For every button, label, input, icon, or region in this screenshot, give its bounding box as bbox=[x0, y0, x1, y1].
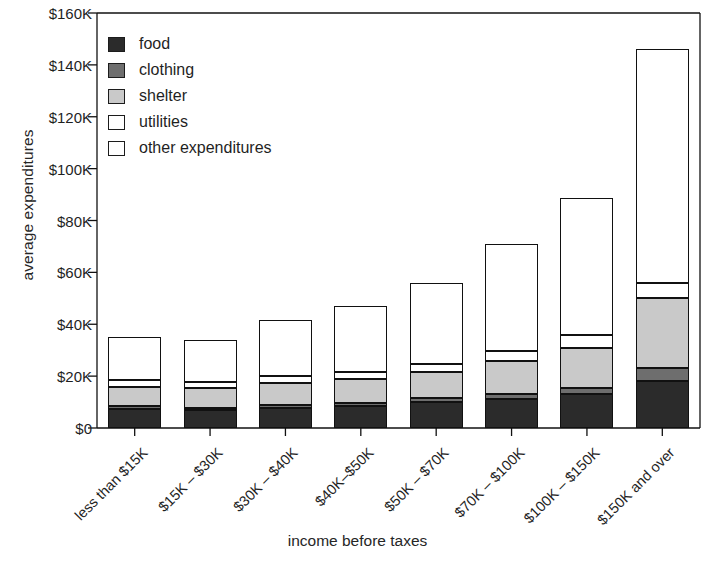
y-axis-tick-labels: $0$20K$40K$60K$80K$100K$120K$140K$160K bbox=[28, 0, 92, 561]
legend-swatch-icon bbox=[108, 63, 125, 78]
bar-segment bbox=[184, 388, 237, 408]
bar-segment bbox=[184, 340, 237, 382]
bar-segment bbox=[259, 383, 312, 405]
bar-segment bbox=[184, 382, 237, 388]
bar-segment bbox=[560, 388, 613, 394]
bar-segment bbox=[259, 376, 312, 383]
legend-item: food bbox=[108, 36, 272, 52]
bar-segment bbox=[108, 380, 161, 386]
bar-segment bbox=[334, 306, 387, 372]
bar-segment bbox=[259, 320, 312, 377]
legend-swatch-icon bbox=[108, 89, 125, 104]
legend-item-label: utilities bbox=[139, 114, 188, 130]
bar-segment bbox=[184, 410, 237, 428]
y-tick-label: $140K bbox=[28, 56, 92, 73]
bar-segment bbox=[108, 406, 161, 409]
bar-segment bbox=[410, 402, 463, 428]
bar-segment bbox=[184, 408, 237, 411]
legend-item-label: clothing bbox=[139, 62, 194, 78]
bar-segment bbox=[334, 406, 387, 428]
bar-segment bbox=[334, 379, 387, 403]
legend: foodclothingshelterutilitiesother expend… bbox=[108, 36, 272, 166]
y-tick-label: $160K bbox=[28, 5, 92, 22]
legend-item: shelter bbox=[108, 88, 272, 104]
bar-segment bbox=[334, 372, 387, 379]
y-tick-label: $40K bbox=[28, 316, 92, 333]
stacked-bar-chart: average expenditures income before taxes… bbox=[0, 0, 715, 561]
y-tick-label: $120K bbox=[28, 108, 92, 125]
legend-item-label: other expenditures bbox=[139, 140, 272, 156]
bar-segment bbox=[108, 409, 161, 428]
bar-segment bbox=[410, 398, 463, 402]
bar-segment bbox=[108, 387, 161, 406]
bar-segment bbox=[410, 372, 463, 398]
bar-segment bbox=[485, 351, 538, 361]
bar-segment bbox=[485, 361, 538, 394]
bar-segment bbox=[560, 394, 613, 428]
y-tick-label: $100K bbox=[28, 160, 92, 177]
bar-segment bbox=[636, 283, 689, 299]
bar-segment bbox=[485, 394, 538, 399]
y-tick-label: $80K bbox=[28, 212, 92, 229]
legend-item-label: shelter bbox=[139, 88, 187, 104]
bar-segment bbox=[560, 348, 613, 388]
bar-segment bbox=[560, 335, 613, 347]
legend-swatch-icon bbox=[108, 37, 125, 52]
bar-segment bbox=[636, 49, 689, 282]
legend-swatch-icon bbox=[108, 115, 125, 130]
bar-segment bbox=[108, 337, 161, 380]
y-tick-label: $20K bbox=[28, 368, 92, 385]
y-tick-label: $0 bbox=[28, 420, 92, 437]
legend-item: other expenditures bbox=[108, 140, 272, 156]
legend-item: utilities bbox=[108, 114, 272, 130]
y-tick-label: $60K bbox=[28, 264, 92, 281]
bar-segment bbox=[410, 364, 463, 373]
bar-segment bbox=[485, 244, 538, 352]
bar-segment bbox=[560, 198, 613, 335]
bar-segment bbox=[259, 408, 312, 428]
bar-segment bbox=[485, 399, 538, 428]
bar-segment bbox=[259, 405, 312, 408]
bar-segment bbox=[410, 283, 463, 363]
legend-swatch-icon bbox=[108, 141, 125, 156]
legend-item-label: food bbox=[139, 36, 170, 52]
bar-segment bbox=[636, 381, 689, 428]
legend-item: clothing bbox=[108, 62, 272, 78]
bar-segment bbox=[636, 298, 689, 368]
bar-segment bbox=[636, 368, 689, 381]
bar-segment bbox=[334, 403, 387, 406]
